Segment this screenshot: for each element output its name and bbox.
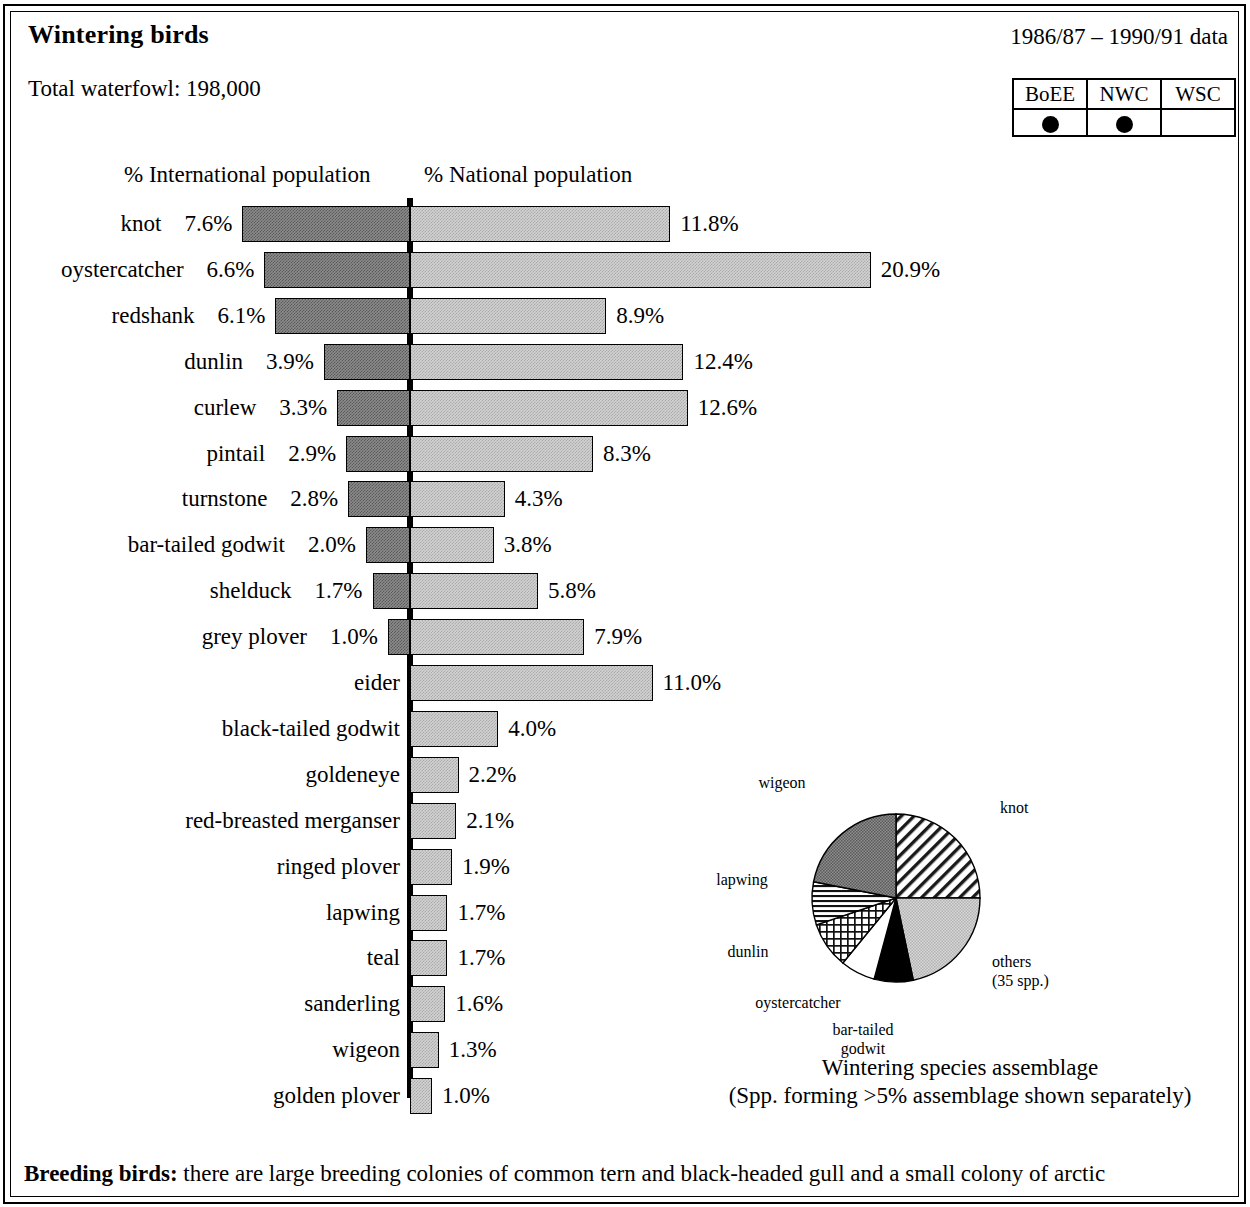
national-value-label: 7.9% [594,624,642,650]
national-bar [410,436,593,472]
bar-row: pintail 2.9%8.3% [0,436,1250,472]
bar-row: turnstone 2.8%4.3% [0,481,1250,517]
national-value-label: 20.9% [881,257,940,283]
international-bar [373,573,410,609]
national-value-label: 8.9% [616,303,664,329]
bar-row-label: oystercatcher 6.6% [61,257,255,283]
international-bar [366,527,410,563]
wintering-birds-figure: Wintering birds 1986/87 – 1990/91 data T… [0,0,1250,1207]
national-bar [410,711,498,747]
bar-row: shelduck 1.7%5.8% [0,573,1250,609]
national-bar [410,298,606,334]
breeding-birds-label: Breeding birds: [24,1161,178,1186]
pie-slice [896,814,980,898]
national-value-label: 1.9% [462,854,510,880]
national-value-label: 11.8% [680,211,739,237]
bar-row-label: goldeneye [305,762,400,788]
international-bar [275,298,410,334]
breeding-birds-note: Breeding birds: there are large breeding… [24,1160,1226,1189]
bar-row-label: red-breasted merganser [185,808,400,834]
international-bar [242,206,410,242]
national-bar [410,1078,432,1114]
national-value-label: 11.0% [663,670,722,696]
national-bar [410,206,670,242]
bar-row-label: sanderling [304,991,400,1017]
national-bar [410,481,505,517]
bar-row-label: dunlin 3.9% [184,349,314,375]
bar-row-label: shelduck 1.7% [210,578,363,604]
national-bar [410,573,538,609]
national-value-label: 4.0% [508,716,556,742]
international-bar [348,481,410,517]
pie-svg: knotothers(35 spp.)bar-tailedgodwitoyste… [700,735,1220,1075]
national-bar [410,1032,439,1068]
national-bar [410,527,494,563]
bar-row-label: pintail 2.9% [206,441,336,467]
bar-row-label: eider [354,670,400,696]
national-bar [410,757,459,793]
pie-caption: Wintering species assemblage (Spp. formi… [700,1054,1220,1110]
pie-caption-subtitle: (Spp. forming >5% assemblage shown separ… [700,1082,1220,1110]
pie-slice-label: bar-tailedgodwit [833,1021,894,1058]
bar-row: eider11.0% [0,665,1250,701]
national-bar [410,803,456,839]
national-bar [410,940,447,976]
bar-row: oystercatcher 6.6%20.9% [0,252,1250,288]
bar-row-label: black-tailed godwit [222,716,400,742]
national-bar [410,390,688,426]
bar-row-label: redshank 6.1% [112,303,266,329]
national-value-label: 1.3% [449,1037,497,1063]
bar-row-label: ringed plover [277,854,400,880]
pie-slice-label: dunlin [728,943,769,960]
international-bar [264,252,410,288]
national-bar [410,895,447,931]
breeding-birds-text: there are large breeding colonies of com… [178,1161,1106,1186]
bar-row-label: grey plover 1.0% [202,624,378,650]
international-bar [337,390,410,426]
species-assemblage-pie-chart: knotothers(35 spp.)bar-tailedgodwitoyste… [700,735,1220,1075]
national-value-label: 1.7% [457,900,505,926]
national-value-label: 2.1% [466,808,514,834]
international-bar [324,344,410,380]
bar-row: dunlin 3.9%12.4% [0,344,1250,380]
national-bar [410,344,683,380]
national-value-label: 8.3% [603,441,651,467]
national-value-label: 1.6% [455,991,503,1017]
national-bar [410,986,445,1022]
national-bar [410,665,653,701]
pie-slice-label: lapwing [716,871,768,889]
national-value-label: 2.2% [469,762,517,788]
pie-caption-title: Wintering species assemblage [700,1054,1220,1082]
national-bar [410,252,871,288]
national-value-label: 3.8% [504,532,552,558]
bar-row: knot 7.6%11.8% [0,206,1250,242]
pie-slice-label: others(35 spp.) [992,953,1049,990]
bar-row: bar-tailed godwit 2.0%3.8% [0,527,1250,563]
pie-slice-label: wigeon [758,774,805,792]
national-value-label: 4.3% [515,486,563,512]
bar-row-label: turnstone 2.8% [182,486,339,512]
national-value-label: 1.7% [457,945,505,971]
international-bar [388,619,410,655]
national-value-label: 12.6% [698,395,757,421]
bar-row: grey plover 1.0%7.9% [0,619,1250,655]
national-value-label: 5.8% [548,578,596,604]
national-bar [410,619,584,655]
pie-slice-label: knot [1000,799,1029,816]
international-bar [346,436,410,472]
bar-row-label: golden plover [273,1083,400,1109]
bar-row: redshank 6.1%8.9% [0,298,1250,334]
national-value-label: 1.0% [442,1083,490,1109]
bar-row-label: bar-tailed godwit 2.0% [128,532,356,558]
bar-row-label: lapwing [326,900,400,926]
pie-slice-label: oystercatcher [755,994,841,1012]
national-bar [410,849,452,885]
bar-row: curlew 3.3%12.6% [0,390,1250,426]
national-value-label: 12.4% [693,349,752,375]
bar-row-label: curlew 3.3% [194,395,328,421]
bar-row-label: knot 7.6% [121,211,233,237]
bar-row-label: teal [367,945,400,971]
bar-row-label: wigeon [332,1037,400,1063]
